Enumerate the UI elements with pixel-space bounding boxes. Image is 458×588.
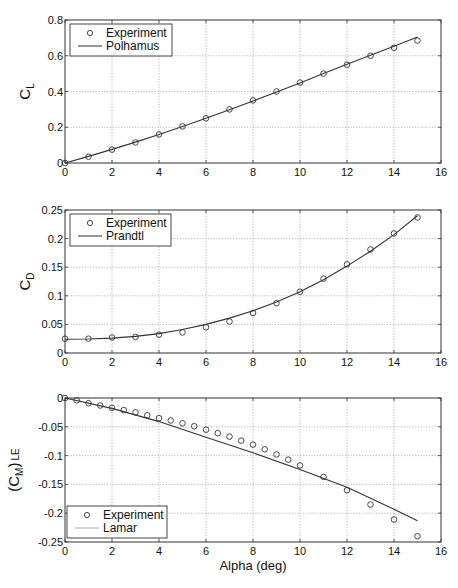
- legend-label: Experiment: [103, 508, 164, 522]
- legend-label: Polhamus: [106, 39, 159, 53]
- legend-label: Lamar: [103, 521, 137, 535]
- x-tick-label: 12: [341, 356, 353, 368]
- data-point: [191, 423, 197, 429]
- x-tick-label: 12: [341, 545, 353, 557]
- x-tick-label: 14: [388, 545, 400, 557]
- x-tick-label: 2: [109, 356, 115, 368]
- data-point: [227, 434, 233, 440]
- x-tick-label: 10: [294, 166, 306, 178]
- x-tick-label: 4: [156, 545, 162, 557]
- y-tick-label: -0.1: [44, 450, 63, 462]
- legend-label: Experiment: [106, 216, 167, 230]
- legend: ExperimentPolhamus: [70, 24, 172, 56]
- data-point: [144, 412, 150, 418]
- y-tick-label: -0.15: [38, 478, 63, 490]
- x-tick-label: 10: [294, 356, 306, 368]
- y-tick-label: -0.2: [44, 507, 63, 519]
- series-line-lamar: [65, 398, 418, 521]
- data-point: [168, 418, 174, 424]
- x-tick-label: 16: [435, 545, 447, 557]
- y-tick-label: 0.15: [42, 261, 63, 273]
- data-point: [227, 319, 233, 325]
- data-point: [238, 438, 244, 444]
- data-point: [133, 410, 139, 416]
- y-tick-label: 0.05: [42, 318, 63, 330]
- x-tick-label: 8: [250, 166, 256, 178]
- data-point: [415, 533, 421, 539]
- x-tick-label: 2: [109, 545, 115, 557]
- y-tick-label: 0.2: [48, 121, 63, 133]
- x-tick-label: 10: [294, 545, 306, 557]
- data-point: [180, 330, 186, 336]
- moment-coefficient-chart: 0246810121416-0.25-0.2-0.15-0.1-0.050Exp…: [5, 392, 447, 573]
- x-axis-label: Alpha (deg): [219, 558, 286, 573]
- x-tick-label: 8: [250, 545, 256, 557]
- x-tick-label: 16: [435, 356, 447, 368]
- y-tick-label: 0.2: [48, 233, 63, 245]
- y-axis-label: (CM)LE: [5, 448, 25, 492]
- x-tick-label: 6: [203, 356, 209, 368]
- x-tick-label: 14: [388, 166, 400, 178]
- y-tick-label: -0.25: [38, 536, 63, 548]
- y-axis-label: CL: [16, 83, 36, 100]
- x-tick-label: 4: [156, 166, 162, 178]
- legend: ExperimentLamar: [67, 506, 167, 538]
- data-point: [262, 446, 268, 452]
- x-tick-label: 14: [388, 356, 400, 368]
- x-tick-label: 4: [156, 356, 162, 368]
- x-tick-label: 6: [203, 545, 209, 557]
- y-tick-label: 0.1: [48, 290, 63, 302]
- lift-coefficient-chart: 024681012141600.20.40.60.8ExperimentPolh…: [16, 14, 447, 178]
- drag-coefficient-chart: 024681012141600.050.10.150.20.25Experime…: [16, 204, 447, 368]
- data-point: [368, 502, 374, 508]
- y-tick-label: 0.4: [48, 86, 63, 98]
- legend-label: Experiment: [106, 26, 167, 40]
- x-tick-label: 12: [341, 166, 353, 178]
- legend: ExperimentPrandtl: [70, 214, 171, 246]
- y-tick-label: 0.8: [48, 14, 63, 26]
- data-point: [215, 430, 221, 436]
- x-tick-label: 2: [109, 166, 115, 178]
- y-tick-label: 0.25: [42, 204, 63, 216]
- y-tick-label: 0.6: [48, 50, 63, 62]
- x-tick-label: 6: [203, 166, 209, 178]
- x-tick-label: 8: [250, 356, 256, 368]
- y-axis-label: CD: [16, 272, 36, 290]
- chart-figure: 024681012141600.20.40.60.8ExperimentPolh…: [0, 0, 458, 588]
- data-point: [274, 452, 280, 458]
- data-point: [285, 457, 291, 463]
- y-tick-label: -0.05: [38, 421, 63, 433]
- x-tick-label: 16: [435, 166, 447, 178]
- data-point: [180, 421, 186, 427]
- y-tick-label: 0: [57, 347, 63, 359]
- legend-label: Prandtl: [106, 229, 144, 243]
- data-point: [415, 38, 421, 44]
